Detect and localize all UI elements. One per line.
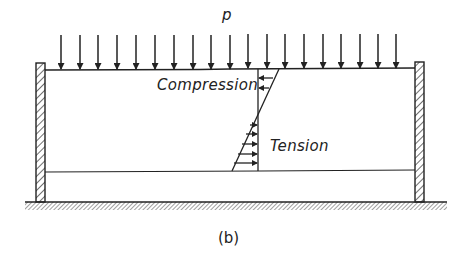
- tension-arrows: [234, 125, 257, 163]
- figure-caption: (b): [218, 229, 239, 247]
- load-label: p: [222, 6, 232, 24]
- distributed-load-arrows: [61, 34, 396, 69]
- compression-label: Compression: [157, 76, 258, 94]
- ground: [25, 202, 447, 210]
- beam-stress-diagram: p Compression Tension (b): [0, 0, 458, 262]
- right-support-wall: [415, 62, 424, 202]
- tension-label: Tension: [270, 137, 329, 155]
- left-support-wall: [36, 63, 45, 202]
- diagram-canvas: [0, 0, 458, 262]
